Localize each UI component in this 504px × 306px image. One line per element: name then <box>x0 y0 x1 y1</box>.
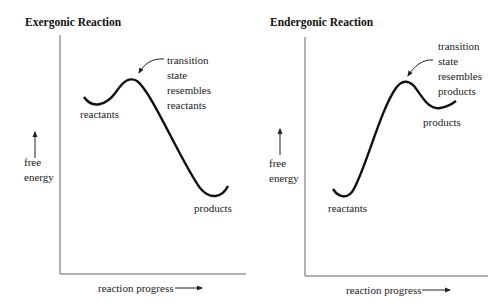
exergonic-panel: Exergonic Reaction free energy reaction … <box>24 16 246 294</box>
ts-note-line: transition <box>438 40 480 52</box>
ts-note-line: state <box>438 55 458 67</box>
energy-diagrams: Exergonic Reaction free energy reaction … <box>0 0 504 306</box>
y-label-free: free <box>269 157 286 169</box>
reactants-label: reactants <box>328 202 367 214</box>
reactants-label: reactants <box>80 108 119 120</box>
panel-title: Exergonic Reaction <box>25 16 122 29</box>
energy-curve <box>333 82 456 197</box>
products-label: products <box>423 116 461 128</box>
products-label: products <box>194 202 232 214</box>
panel-title: Endergonic Reaction <box>270 16 374 29</box>
ts-note-line: reactants <box>167 99 206 111</box>
ts-note-line: resembles <box>167 84 211 96</box>
ts-note-line: resembles <box>438 70 482 82</box>
y-label-energy: energy <box>24 171 54 183</box>
y-label-free: free <box>24 156 41 168</box>
ts-note-line: state <box>167 69 187 81</box>
ts-note-line: products <box>438 85 476 97</box>
x-label: reaction progress <box>98 282 173 294</box>
ts-note-line: transition <box>167 54 209 66</box>
y-label-energy: energy <box>269 172 299 184</box>
ts-pointer-icon <box>139 59 164 73</box>
endergonic-panel: Endergonic Reaction free energy reaction… <box>269 16 488 296</box>
energy-curve <box>84 79 228 196</box>
ts-pointer-icon <box>408 60 433 76</box>
x-label: reaction progress <box>346 284 421 296</box>
